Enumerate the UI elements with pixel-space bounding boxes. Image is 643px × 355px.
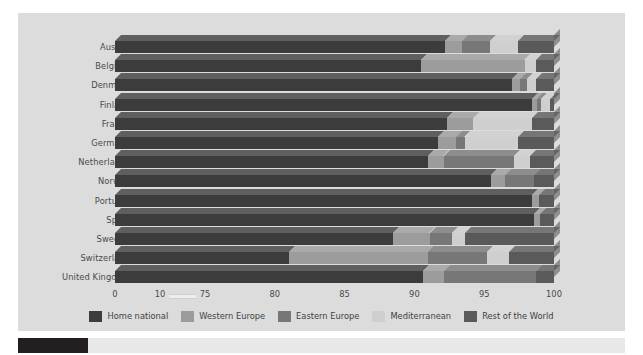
bar-segment-top bbox=[444, 150, 520, 156]
value-axis: 0107580859095100 bbox=[18, 289, 625, 305]
bar-segment-face bbox=[518, 137, 554, 149]
bar-row bbox=[18, 208, 625, 226]
bar-segment-face bbox=[393, 233, 429, 245]
bar-segment-face bbox=[491, 175, 505, 187]
bar-segment-face bbox=[536, 79, 554, 91]
bar-segment-face bbox=[539, 195, 554, 207]
bar-row bbox=[18, 169, 625, 187]
bar-segment-face bbox=[289, 252, 429, 264]
bar-segment-top bbox=[115, 227, 399, 233]
footer-light-strip bbox=[88, 338, 625, 353]
bar-segment bbox=[532, 118, 554, 130]
legend-item-mediterranean[interactable]: Mediterranean bbox=[372, 311, 451, 322]
bar-segment-face bbox=[430, 233, 452, 245]
bar-segment-top bbox=[115, 169, 497, 175]
axis-break-marker bbox=[169, 294, 196, 299]
bar-segment bbox=[289, 252, 429, 264]
chart-figure: AustriaBelgiumDenmarkFinlandFranceGerman… bbox=[18, 13, 625, 331]
bar-segment-face bbox=[465, 233, 554, 245]
x-tick-85: 85 bbox=[339, 289, 350, 299]
bar-segment-top bbox=[465, 227, 560, 233]
bar-segment bbox=[465, 233, 554, 245]
legend-swatch-icon bbox=[89, 311, 102, 322]
bar-segment-face bbox=[438, 137, 456, 149]
bar-segment-face bbox=[421, 60, 524, 72]
bar-segment bbox=[462, 41, 490, 53]
x-tick-10: 10 bbox=[155, 289, 166, 299]
bar-segment-face bbox=[115, 252, 289, 264]
bar-segment bbox=[536, 79, 554, 91]
bar-segment bbox=[444, 156, 514, 168]
bar-row bbox=[18, 54, 625, 72]
bar-segment-face bbox=[518, 41, 554, 53]
bar-segment-top bbox=[115, 112, 453, 118]
bar-segment-top bbox=[465, 131, 524, 137]
legend-label: Eastern Europe bbox=[296, 311, 359, 321]
bar-segment-top bbox=[289, 246, 435, 252]
bar-segment bbox=[438, 137, 456, 149]
bar-segment-face bbox=[115, 41, 445, 53]
bar-segment bbox=[115, 271, 423, 283]
bar-segment-face bbox=[115, 79, 512, 91]
bar-segment-face bbox=[465, 137, 518, 149]
bar-segment-face bbox=[115, 118, 447, 130]
legend-item-eastern-europe[interactable]: Eastern Europe bbox=[278, 311, 359, 322]
bar-segment bbox=[525, 60, 536, 72]
legend-item-rest-of-the-world[interactable]: Rest of the World bbox=[464, 311, 553, 322]
bar-segment-face bbox=[115, 233, 393, 245]
bar-segment bbox=[465, 137, 518, 149]
x-tick-90: 90 bbox=[409, 289, 420, 299]
bar-segment-top bbox=[115, 265, 429, 271]
legend-item-home-national[interactable]: Home national bbox=[89, 311, 168, 322]
legend-label: Western Europe bbox=[199, 311, 265, 321]
bar-segment-top bbox=[115, 150, 434, 156]
bar-segment bbox=[421, 60, 524, 72]
bar-segment bbox=[550, 99, 554, 111]
bar-segment-face bbox=[444, 156, 514, 168]
bar-segment bbox=[540, 214, 554, 226]
bar-segment bbox=[428, 252, 487, 264]
bar-segment-top bbox=[115, 189, 538, 195]
bar-segment-face bbox=[115, 156, 428, 168]
bar-row bbox=[18, 131, 625, 149]
bar-row bbox=[18, 93, 625, 111]
bar-segment bbox=[447, 118, 474, 130]
bar-segment bbox=[115, 118, 447, 130]
bar-segment bbox=[520, 79, 527, 91]
bar-segment-top bbox=[509, 246, 560, 252]
legend-label: Home national bbox=[107, 311, 168, 321]
bar-segment bbox=[423, 271, 444, 283]
bar-segment bbox=[444, 271, 536, 283]
bar-segment-top bbox=[115, 73, 518, 79]
bar-row bbox=[18, 150, 625, 168]
chart-legend: Home nationalWestern EuropeEastern Europ… bbox=[18, 311, 625, 322]
x-tick-75: 75 bbox=[200, 289, 211, 299]
bar-row bbox=[18, 265, 625, 283]
bar-segment-face bbox=[445, 41, 462, 53]
bar-segment-face bbox=[456, 137, 464, 149]
bar-segment-face bbox=[444, 271, 536, 283]
bar-segment-face bbox=[473, 118, 532, 130]
legend-swatch-icon bbox=[278, 311, 291, 322]
bar-segment bbox=[115, 252, 289, 264]
bar-segment-face bbox=[509, 252, 554, 264]
bar-segment-top bbox=[115, 93, 538, 99]
bar-segment-face bbox=[423, 271, 444, 283]
bar-segment-face bbox=[534, 175, 554, 187]
bar-segment-face bbox=[525, 60, 536, 72]
bar-segment bbox=[514, 156, 531, 168]
legend-item-western-europe[interactable]: Western Europe bbox=[181, 311, 265, 322]
x-tick-100: 100 bbox=[546, 289, 562, 299]
bar-segment-top bbox=[115, 246, 295, 252]
bar-segment bbox=[115, 60, 421, 72]
bar-segment bbox=[115, 79, 512, 91]
bar-segment bbox=[473, 118, 532, 130]
bar-segment bbox=[430, 233, 452, 245]
bar-segment-top bbox=[421, 54, 530, 60]
bar-segment-face bbox=[115, 137, 438, 149]
bar-segment bbox=[428, 156, 443, 168]
bar-row bbox=[18, 112, 625, 130]
bar-segment-face bbox=[447, 118, 474, 130]
bar-segment-top bbox=[115, 208, 540, 214]
bar-segment bbox=[115, 214, 534, 226]
